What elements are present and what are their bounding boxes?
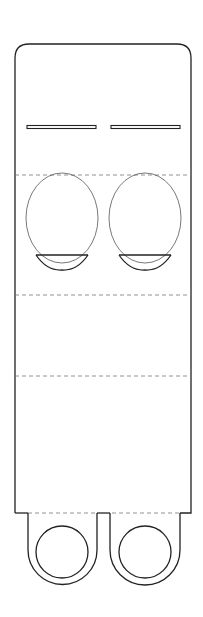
right-tab-hole [119, 526, 171, 578]
left-slot [27, 126, 96, 129]
right-slot [111, 126, 180, 129]
right-loop-tab [110, 513, 180, 585]
left-tab-hole [36, 526, 88, 578]
right-eye-cutout [109, 173, 181, 270]
left-eye-cutout [26, 173, 98, 270]
left-loop-tab [28, 513, 97, 584]
template-diagram [0, 0, 203, 617]
outer-panel [15, 44, 191, 513]
